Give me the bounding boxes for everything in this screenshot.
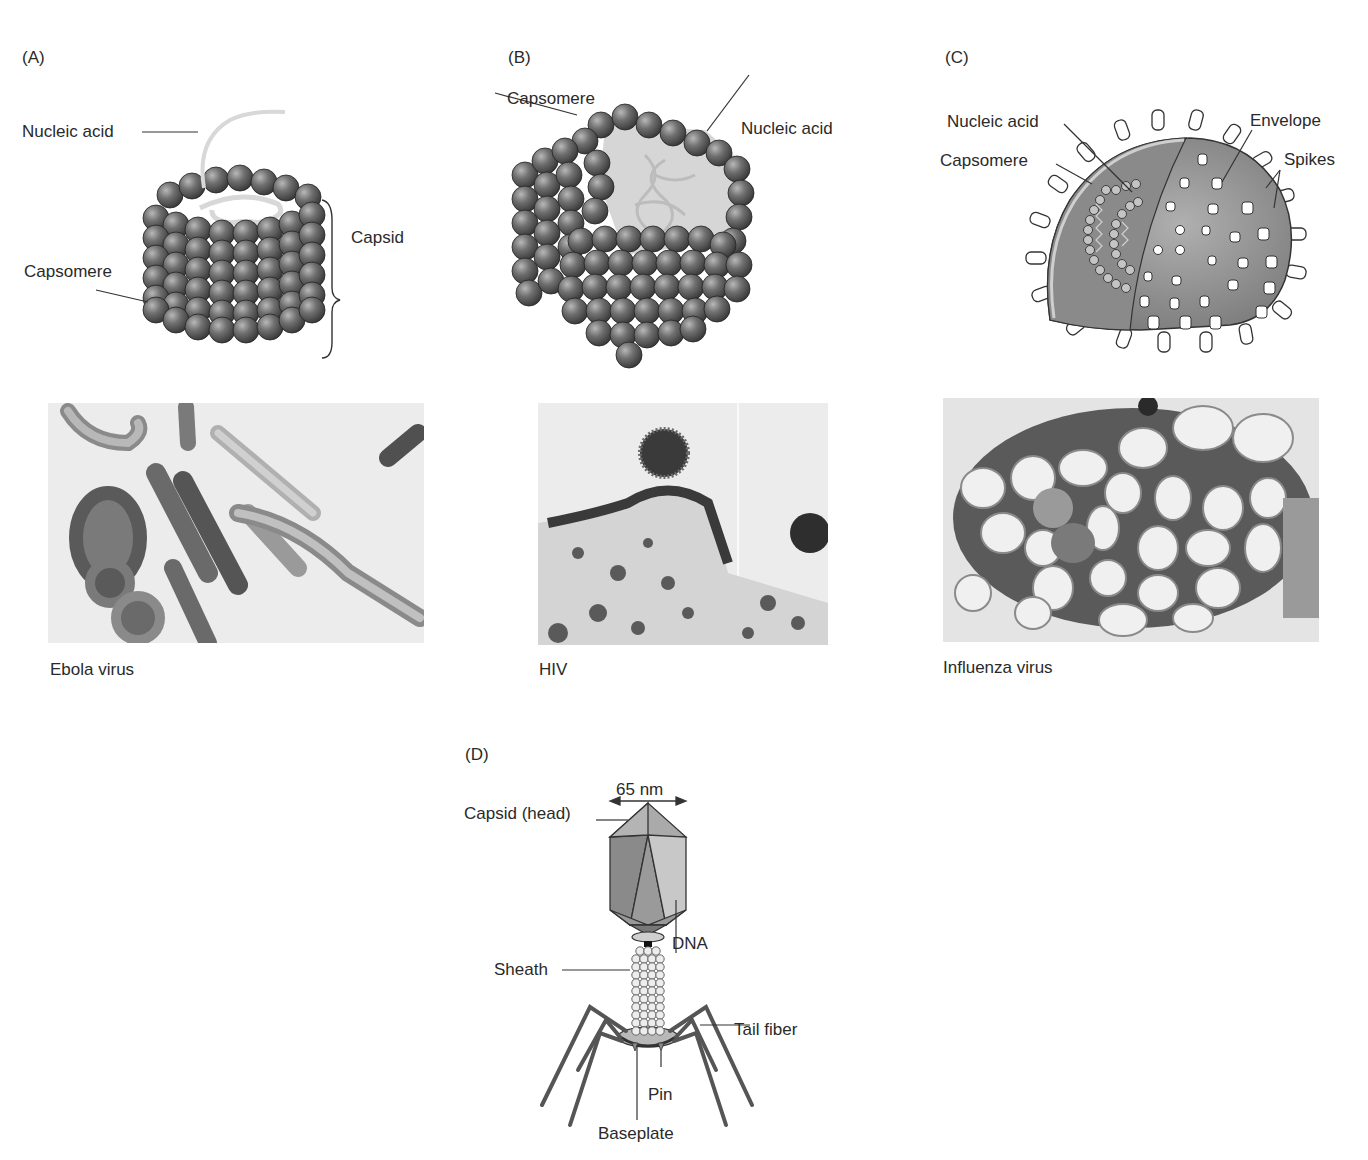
label-c-capsomere: Capsomere: [940, 151, 1028, 171]
caption-hiv: HIV: [539, 660, 567, 680]
label-c-envelope: Envelope: [1250, 111, 1321, 131]
panel-d-label: (D): [465, 745, 489, 765]
tail-sheath: [632, 947, 664, 1027]
panel-a-label: (A): [22, 48, 45, 68]
label-b-capsomere: Capsomere: [507, 89, 595, 109]
label-d-capsid-head: Capsid (head): [464, 804, 571, 824]
bacteriophage-diagram: [530, 775, 850, 1135]
label-a-capsid: Capsid: [351, 228, 404, 248]
label-d-dimension: 65 nm: [616, 780, 663, 800]
collar: [632, 932, 664, 942]
label-a-capsomere: Capsomere: [24, 262, 112, 282]
label-d-dna: DNA: [672, 934, 708, 954]
ebola-micrograph: [48, 403, 424, 643]
capsid-head: [610, 803, 686, 935]
influenza-micrograph: [943, 398, 1319, 642]
label-c-spikes: Spikes: [1284, 150, 1335, 170]
icosahedral-capsid-diagram: [505, 105, 765, 365]
capsomere-spheres: [157, 165, 321, 210]
label-d-sheath: Sheath: [494, 960, 548, 980]
label-b-nucleic-acid: Nucleic acid: [741, 119, 833, 139]
hiv-micrograph: [538, 403, 828, 645]
panel-c-label: (C): [945, 48, 969, 68]
caption-ebola: Ebola virus: [50, 660, 134, 680]
label-c-nucleic-acid: Nucleic acid: [947, 112, 1039, 132]
label-d-baseplate: Baseplate: [598, 1124, 674, 1144]
label-d-pin: Pin: [648, 1085, 673, 1105]
enveloped-virus-diagram: [1030, 110, 1330, 370]
label-a-nucleic-acid: Nucleic acid: [22, 122, 114, 142]
label-d-tail-fiber: Tail fiber: [734, 1020, 797, 1040]
panel-b-label: (B): [508, 48, 531, 68]
caption-influenza: Influenza virus: [943, 658, 1053, 678]
